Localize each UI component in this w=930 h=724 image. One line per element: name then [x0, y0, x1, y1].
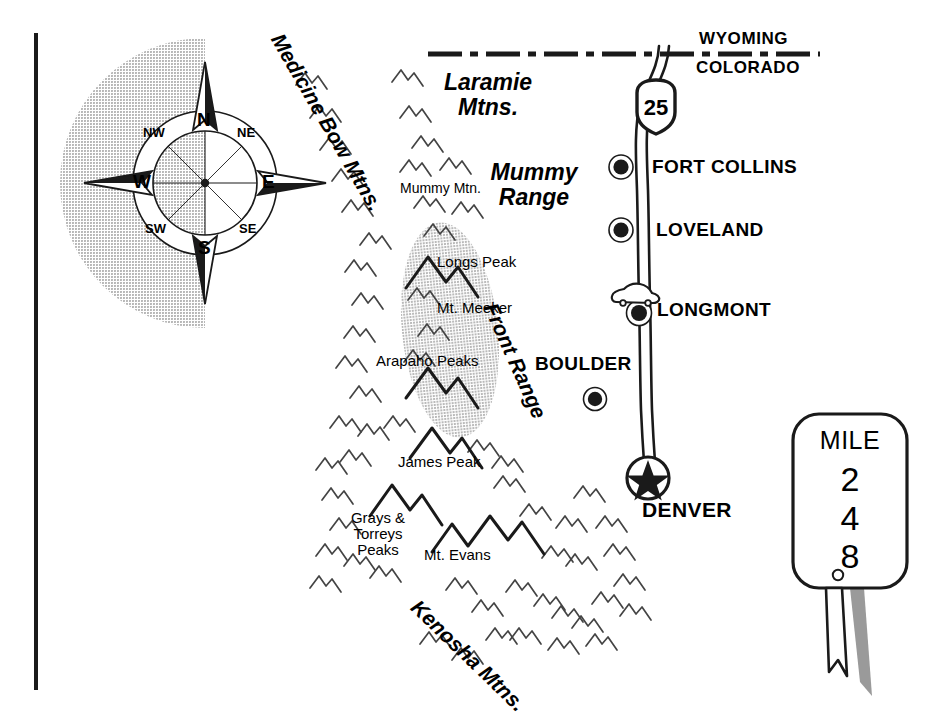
- peak-label-mt-evans: Mt. Evans: [424, 547, 491, 563]
- peak-label-mt-meeker: Mt. Meeker: [437, 300, 512, 316]
- city-marker-fort-collins[interactable]: [609, 155, 633, 179]
- map-canvas: N S E W NW NE SW SE WYOMING COLORADO 25 …: [0, 0, 930, 724]
- city-label-loveland: LOVELAND: [656, 220, 764, 241]
- state-label-wyoming: WYOMING: [699, 30, 788, 48]
- city-label-longmont: LONGMONT: [657, 300, 771, 321]
- peak-label-grays-torreys: Grays & Torreys Peaks: [336, 510, 420, 559]
- mile-marker-word: MILE: [793, 427, 907, 454]
- compass-label-southeast: SE: [239, 222, 256, 236]
- city-label-denver: DENVER: [642, 499, 732, 522]
- compass-label-northwest: NW: [143, 126, 165, 140]
- city-label-fort-collins: FORT COLLINS: [652, 157, 797, 178]
- range-label-laramie-mtns: Laramie Mtns.: [432, 70, 544, 120]
- compass-label-west: W: [133, 172, 151, 193]
- state-label-colorado: COLORADO: [696, 59, 800, 77]
- compass-label-northeast: NE: [237, 126, 255, 140]
- city-marker-boulder[interactable]: [584, 388, 607, 411]
- vehicle-icon: [612, 284, 659, 306]
- city-marker-denver-capital[interactable]: [626, 457, 670, 500]
- city-label-boulder: BOULDER: [535, 354, 632, 375]
- peak-label-longs-peak: Longs Peak: [437, 254, 516, 270]
- compass-label-south: S: [198, 238, 211, 259]
- mile-marker-digit-3: 8: [793, 538, 907, 575]
- mile-marker-digit-1: 2: [793, 461, 907, 498]
- mile-marker-digit-2: 4: [793, 500, 907, 537]
- peak-label-arapaho-peaks: Arapaho Peaks: [376, 353, 479, 369]
- compass-label-east: E: [262, 172, 275, 193]
- interstate-shield-number: 25: [641, 96, 671, 120]
- peak-label-mummy-mtn: Mummy Mtn.: [400, 181, 481, 196]
- peak-label-james-peak: James Peak: [398, 454, 481, 470]
- compass-label-southwest: SW: [145, 222, 166, 236]
- city-marker-loveland[interactable]: [609, 218, 633, 242]
- range-label-mummy-range: Mummy Range: [480, 160, 588, 210]
- compass-label-north: N: [197, 110, 211, 131]
